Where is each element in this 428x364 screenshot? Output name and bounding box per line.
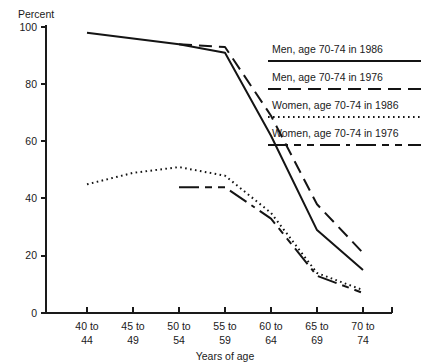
legend-label-2: Women, age 70-74 in 1986	[272, 99, 399, 111]
y-tick-label-20: 20	[25, 249, 37, 261]
x-tick-label-5-line1: 65 to	[305, 320, 329, 332]
x-tick-label-4-line1: 60 to	[259, 320, 283, 332]
x-tick-label-0-line2: 44	[81, 334, 93, 346]
x-tick-label-2-line2: 54	[173, 334, 185, 346]
x-tick-label-6-line2: 74	[357, 334, 369, 346]
y-axis-title: Percent	[18, 8, 54, 20]
chart-figure: Percent 100 80 60 40 20 0 40 to 44 45 to…	[0, 0, 428, 364]
series-line-men-1986	[87, 33, 363, 270]
x-tick-label-2-line1: 50 to	[167, 320, 191, 332]
x-tick-label-1-line1: 45 to	[121, 320, 145, 332]
legend-label-0: Men, age 70-74 in 1986	[272, 43, 383, 55]
line-chart: Percent 100 80 60 40 20 0 40 to 44 45 to…	[0, 0, 428, 364]
x-axis-title: Years of age	[196, 350, 255, 362]
series-line-women-1986	[87, 167, 363, 290]
legend-label-3: Women, age 70-74 in 1976	[272, 127, 399, 139]
x-tick-label-4-line2: 64	[265, 334, 277, 346]
y-tick-label-100: 100	[19, 21, 37, 33]
y-tick-label-40: 40	[25, 192, 37, 204]
y-tick-label-60: 60	[25, 135, 37, 147]
x-tick-label-5-line2: 69	[311, 334, 323, 346]
series-line-women-1976	[179, 187, 363, 293]
x-tick-label-1-line2: 49	[127, 334, 139, 346]
chart-legend: Men, age 70-74 in 1986 Men, age 70-74 in…	[268, 43, 421, 145]
x-tick-label-3-line1: 55 to	[213, 320, 237, 332]
x-tick-label-3-line2: 59	[219, 334, 231, 346]
y-tick-label-0: 0	[31, 307, 37, 319]
y-tick-label-80: 80	[25, 78, 37, 90]
x-tick-label-0-line1: 40 to	[75, 320, 99, 332]
x-tick-label-6-line1: 70 to	[351, 320, 375, 332]
legend-label-1: Men, age 70-74 in 1976	[272, 71, 383, 83]
